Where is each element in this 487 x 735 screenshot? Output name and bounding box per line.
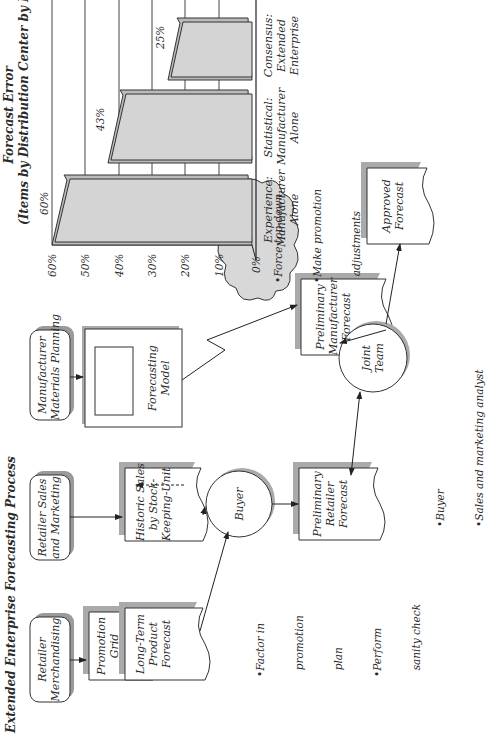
bar-statistical bbox=[108, 90, 252, 163]
label-line: Manufacturer bbox=[275, 172, 288, 247]
y-tick: 40% bbox=[113, 254, 126, 277]
category-label-consensus: Consensus: Extended Enterprise bbox=[262, 8, 301, 83]
bar-consensus bbox=[168, 18, 252, 80]
label-line: Alone bbox=[288, 90, 301, 165]
y-tick: 10% bbox=[213, 254, 226, 277]
label-line: Alone bbox=[288, 172, 301, 247]
bar-chart bbox=[0, 0, 487, 735]
label-line: Consensus: bbox=[262, 8, 275, 83]
y-tick: 0% bbox=[250, 256, 263, 273]
label-line: Extended bbox=[275, 8, 288, 83]
value-label-statistical: 43% bbox=[94, 108, 107, 131]
rotated-figure-page: Extended Enterprise Forecasting Process bbox=[0, 0, 487, 735]
value-label-experience: 60% bbox=[38, 192, 51, 215]
label-line: Enterprise bbox=[288, 8, 301, 83]
y-tick: 50% bbox=[79, 254, 92, 277]
bar-experience bbox=[52, 175, 252, 245]
label-line: Experience: bbox=[262, 172, 275, 247]
category-label-statistical: Statistical: Manufacturer Alone bbox=[262, 90, 301, 165]
y-tick: 30% bbox=[146, 254, 159, 277]
y-tick: 20% bbox=[179, 254, 192, 277]
category-label-experience: Experience: Manufacturer Alone bbox=[262, 172, 301, 247]
label-line: Manufacturer bbox=[275, 90, 288, 165]
y-tick: 60% bbox=[46, 254, 59, 277]
value-label-consensus: 25% bbox=[154, 26, 167, 49]
label-line: Statistical: bbox=[262, 90, 275, 165]
